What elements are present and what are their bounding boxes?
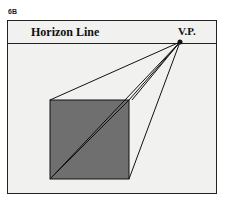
- orthogonal-top-left: [50, 42, 180, 100]
- perspective-drawing: [0, 0, 229, 203]
- orthogonal-bottom-right: [129, 42, 180, 179]
- orthogonal-inner: [132, 42, 180, 100]
- vanishing-point-dot: [178, 40, 183, 45]
